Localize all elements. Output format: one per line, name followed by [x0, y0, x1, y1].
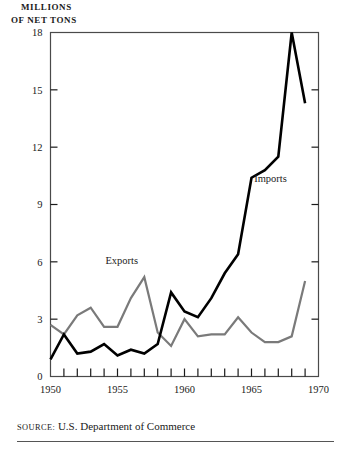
x-tick-label-1960: 1960: [174, 384, 195, 395]
series-line-exports: [51, 277, 306, 346]
x-axis-ticks: [64, 369, 305, 377]
y-tick-label-6: 6: [37, 257, 42, 268]
x-tick-label-1950: 1950: [40, 384, 61, 395]
bottom-divider: [17, 441, 334, 442]
y-tick-label-9: 9: [37, 199, 42, 210]
line-chart: 0369121518 19501955196019651970 ExportsI…: [0, 0, 351, 410]
x-tick-label-1970: 1970: [308, 384, 329, 395]
figure-container: MILLIONS OF NET TONS 0369121518 19501955…: [0, 0, 351, 458]
series-label-exports: Exports: [105, 255, 138, 266]
series-annotations: ExportsImports: [105, 173, 286, 266]
plot-frame: [51, 33, 319, 377]
y-tick-label-12: 12: [32, 142, 43, 153]
data-series-lines: [51, 33, 306, 360]
series-line-imports: [51, 33, 306, 360]
y-tick-label-18: 18: [32, 27, 43, 38]
y-axis-tick-labels: 0369121518: [32, 27, 43, 382]
source-note: SOURCE: U.S. Department of Commerce: [17, 420, 195, 432]
x-axis-tick-labels: 19501955196019651970: [40, 384, 329, 395]
x-tick-label-1965: 1965: [241, 384, 262, 395]
y-axis-ticks: [51, 90, 319, 319]
source-value: U.S. Department of Commerce: [58, 420, 195, 432]
y-tick-label-3: 3: [37, 314, 42, 325]
source-label: SOURCE:: [17, 423, 55, 432]
x-tick-label-1955: 1955: [107, 384, 128, 395]
series-label-imports: Imports: [254, 173, 287, 184]
y-tick-label-15: 15: [32, 85, 43, 96]
y-tick-label-0: 0: [37, 371, 42, 382]
